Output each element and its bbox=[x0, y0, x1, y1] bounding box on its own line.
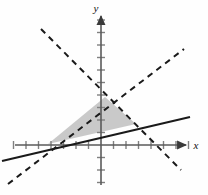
shaded-triangle-region bbox=[48, 97, 136, 144]
y-axis-label: y bbox=[93, 2, 99, 14]
dashed-line-descending bbox=[41, 29, 181, 170]
coordinate-plane-svg: y x bbox=[0, 0, 208, 195]
dashed-line-ascending bbox=[8, 49, 184, 184]
x-axis-label: x bbox=[193, 139, 199, 151]
graph-figure: y x bbox=[0, 0, 208, 195]
